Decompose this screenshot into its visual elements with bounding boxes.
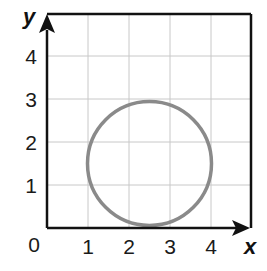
y-tick-4: 4: [25, 45, 37, 68]
x-tick-4: 4: [205, 235, 217, 258]
grid: [47, 14, 251, 228]
plot-frame: [47, 14, 251, 228]
y-tick-2: 2: [25, 131, 37, 154]
axes: [47, 30, 236, 228]
chart: 0 1 2 3 4 1 2 3 4 x y: [0, 0, 267, 271]
origin-label: 0: [28, 233, 40, 256]
x-tick-2: 2: [123, 235, 135, 258]
y-tick-3: 3: [25, 88, 37, 111]
x-tick-3: 3: [164, 235, 176, 258]
y-tick-1: 1: [25, 174, 37, 197]
y-axis-label: y: [22, 4, 37, 29]
circle-curve: [88, 102, 212, 226]
x-axis-label: x: [243, 234, 257, 259]
x-tick-1: 1: [82, 235, 94, 258]
